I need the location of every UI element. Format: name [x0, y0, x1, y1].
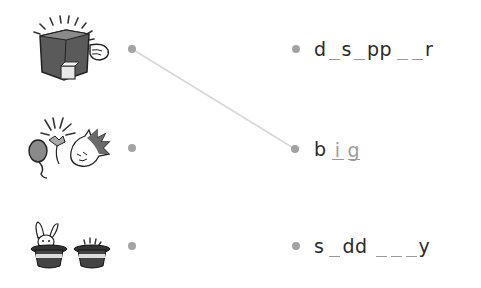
- magic-box-disappear-icon: [28, 14, 118, 86]
- blank[interactable]: [354, 42, 365, 60]
- filled-blank[interactable]: g: [348, 142, 360, 160]
- word-big: b i g: [314, 138, 362, 160]
- left-dot-1[interactable]: [128, 45, 136, 53]
- letter: b: [314, 138, 327, 160]
- balloon-pop-icon: [27, 116, 119, 180]
- letter: s: [342, 38, 352, 60]
- blank[interactable]: [329, 42, 340, 60]
- letter: dd: [342, 235, 367, 257]
- right-dot-1[interactable]: [292, 45, 300, 53]
- left-dot-3[interactable]: [128, 242, 136, 250]
- letter: pp: [367, 38, 392, 60]
- blank[interactable]: [397, 42, 408, 60]
- right-dot-3[interactable]: [292, 242, 300, 250]
- blank[interactable]: [376, 239, 387, 257]
- blank[interactable]: [412, 42, 423, 60]
- letter: y: [419, 235, 431, 257]
- right-dot-2[interactable]: [291, 145, 299, 153]
- letter: s: [314, 235, 324, 257]
- letter: d: [314, 38, 327, 60]
- blank[interactable]: [391, 239, 402, 257]
- blank[interactable]: [406, 239, 417, 257]
- filled-blank[interactable]: i: [332, 142, 344, 160]
- letter: r: [425, 38, 433, 60]
- rabbit-hats-icon: [28, 220, 118, 270]
- blank[interactable]: [329, 239, 340, 257]
- left-dot-2[interactable]: [128, 144, 136, 152]
- connection-line[interactable]: [132, 49, 295, 149]
- word-disappear: d s pp r: [314, 38, 433, 60]
- word-suddenly: s dd y: [314, 235, 430, 257]
